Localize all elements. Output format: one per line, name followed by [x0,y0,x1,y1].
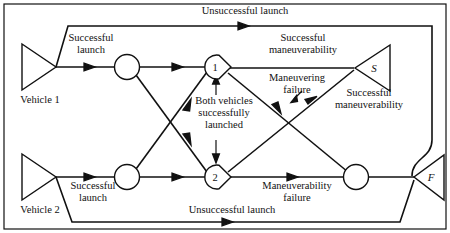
edge-vehicle1-successful-launch [56,63,115,71]
label-both-vehicles-successfully-launched: Both vehicles successfully launched [195,95,252,130]
label-maneuvering-failure-line1: Maneuvering [269,72,326,83]
node-2-label: 2 [212,172,217,183]
node-1: 1 [205,55,231,79]
label-successful-launch-vehicle1-line1: Successful [69,32,114,43]
label-successful-maneuverability-right-line2: maneuverability [335,99,404,110]
edge-topleft-to-node1 [139,63,205,71]
label-unsuccessful-launch-top-line1: Unsuccessful launch [202,5,289,16]
label-both-vehicles-line1: Both vehicles [195,95,252,106]
terminal-failure-label: F [427,171,435,183]
label-both-vehicles-line3: launched [205,119,244,130]
source-vehicle2-triangle [22,154,56,200]
node-top-left-circle [115,55,140,80]
caption-vehicle2: Vehicle 2 [20,204,59,215]
caption-vehicle1: Vehicle 1 [20,94,59,105]
label-successful-maneuverability-top-line1: Successful [281,32,326,43]
label-maneuverability-failure-line1: Maneuverability [262,180,332,191]
terminal-success-triangle: S [355,45,390,91]
label-successful-launch-vehicle1-line2: launch [77,44,106,55]
label-successful-maneuverability-right-line1: Successful [347,87,392,98]
label-successful-launch-vehicle2-line1: Successful [71,180,116,191]
label-successful-maneuverability-top: Successful maneuverability [269,32,338,55]
label-maneuverability-failure-line2: failure [283,192,311,203]
label-unsuccessful-launch-top: Unsuccessful launch [202,5,289,16]
edge-both-vehicles-node2-down [213,140,220,163]
label-successful-maneuverability-right: Successful maneuverability [335,87,404,110]
edge-bottomleft-to-node1 [136,72,207,169]
source-vehicle1-triangle [22,44,56,90]
label-maneuvering-failure: Maneuvering failure [269,72,326,95]
node-bottom-right-circle [344,165,369,190]
caption-vehicle2-text: Vehicle 2 [20,204,59,215]
network-diagram: S F 1 2 Unsuccessful launch S [0,0,450,233]
edge-bottomleft-to-node2 [139,173,205,181]
label-maneuverability-failure: Maneuverability failure [262,180,332,203]
node-bottom-left-circle [115,165,140,190]
label-unsuccessful-launch-bottom: Unsuccessful launch [189,204,276,215]
label-successful-launch-vehicle2-line2: launch [79,192,108,203]
label-successful-maneuverability-top-line2: maneuverability [269,44,338,55]
caption-vehicle1-text: Vehicle 1 [20,94,59,105]
label-successful-launch-vehicle2: Successful launch [71,180,116,203]
diagram-canvas: S F 1 2 Unsuccessful launch S [0,0,450,233]
node-1-label: 1 [212,62,217,73]
edge-topleft-to-node2 [136,75,207,172]
terminal-success-label: S [371,62,377,74]
label-maneuvering-failure-line2: failure [283,84,311,95]
label-unsuccessful-launch-bottom-line1: Unsuccessful launch [189,204,276,215]
label-both-vehicles-line2: successfully [198,107,250,118]
node-2: 2 [205,165,231,189]
label-successful-launch-vehicle1: Successful launch [69,32,114,55]
